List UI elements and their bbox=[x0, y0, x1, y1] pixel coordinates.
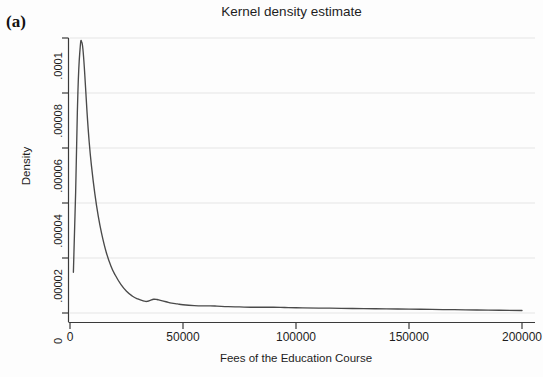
gridlines bbox=[70, 38, 535, 313]
plot-area bbox=[0, 0, 543, 377]
x-tick-label: 0 bbox=[20, 330, 120, 344]
x-tick-label: 50000 bbox=[133, 330, 233, 344]
y-tick-label: .00002 bbox=[52, 256, 64, 316]
y-tick-label: .00004 bbox=[52, 201, 64, 261]
density-curve bbox=[73, 40, 522, 310]
y-tick-label: .00006 bbox=[52, 146, 64, 206]
y-tick-label: .0001 bbox=[52, 36, 64, 96]
axes bbox=[69, 38, 536, 323]
kernel-density-figure: (a) Kernel density estimate Density Fees… bbox=[0, 0, 543, 377]
x-tick-label: 100000 bbox=[246, 330, 346, 344]
x-axis-ticks bbox=[70, 323, 522, 330]
y-tick-label: .00008 bbox=[52, 91, 64, 151]
x-tick-label: 150000 bbox=[359, 330, 459, 344]
x-tick-label: 200000 bbox=[472, 330, 543, 344]
